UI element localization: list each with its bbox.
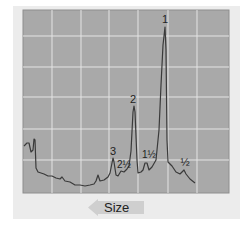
peak-label: 2½ xyxy=(117,159,132,170)
peak-label: 1½ xyxy=(142,149,157,160)
peak-label: 1 xyxy=(162,13,168,25)
chart-plot: 1232½1½½ xyxy=(0,0,245,232)
peak-label: 2 xyxy=(130,93,136,105)
peak-label: ½ xyxy=(180,156,189,168)
x-axis-label: Size xyxy=(104,200,129,215)
peak-label: 3 xyxy=(110,145,116,157)
